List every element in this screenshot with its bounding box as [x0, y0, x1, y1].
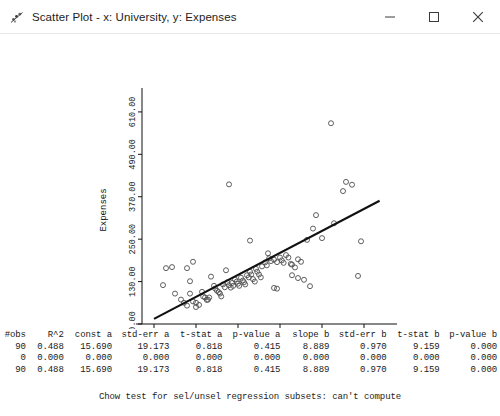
scatter-point [266, 251, 271, 256]
regression-stats-block: #obsR^2const astd-err at-stat ap-value a… [0, 330, 500, 402]
scatter-point [188, 291, 193, 296]
scatter-point [344, 179, 349, 184]
y-tick-label: 130.00 [128, 266, 138, 297]
scatter-point [314, 213, 319, 218]
scatter-point [185, 303, 190, 308]
table-cell: 0.000 [443, 342, 500, 354]
table-column-header: R^2 [29, 330, 67, 342]
scatter-point [320, 236, 325, 241]
table-column-header: t-stat a [172, 330, 225, 342]
table-cell: 0.000 [115, 353, 172, 365]
y-axis-tick-labels: 10.00130.00250.00370.00490.00610.00 [128, 97, 138, 329]
table-cell: 0.000 [29, 353, 67, 365]
regression-line [154, 201, 380, 319]
maximize-button[interactable] [412, 0, 456, 33]
scatter-plot-canvas: 10.00130.00250.00370.00490.00610.00 1.00… [0, 34, 500, 329]
table-cell: 9.159 [390, 365, 443, 377]
scatter-plot-window: Scatter Plot - x: University, y: Expense… [0, 0, 500, 416]
table-cell: 0.000 [332, 353, 389, 365]
scatter-point [185, 266, 190, 271]
table-cell: 15.690 [67, 342, 115, 354]
scatter-point [179, 297, 184, 302]
title-bar[interactable]: Scatter Plot - x: University, y: Expense… [0, 0, 500, 34]
plot-axes [136, 88, 397, 328]
table-column-header: #obs [0, 330, 29, 342]
scatter-point [209, 274, 214, 279]
table-cell: 0.000 [443, 365, 500, 377]
window-controls [368, 0, 500, 33]
chart-app-icon [9, 9, 25, 25]
table-cell: 0.488 [29, 365, 67, 377]
scatter-point [290, 273, 295, 278]
table-cell: 0.415 [225, 365, 283, 377]
table-header-row: #obsR^2const astd-err at-stat ap-value a… [0, 330, 500, 342]
scatter-point [302, 277, 307, 282]
regression-line-segment [154, 201, 380, 319]
scatter-point [164, 266, 169, 271]
table-cell: 0.000 [67, 353, 115, 365]
table-cell: 90 [0, 365, 29, 377]
table-row: 900.48815.69019.1730.8180.4158.8890.9709… [0, 365, 500, 377]
scatter-point [227, 182, 232, 187]
table-cell: 0 [0, 353, 29, 365]
table-row: 00.0000.0000.0000.0000.0000.0000.0000.00… [0, 353, 500, 365]
table-cell: 19.173 [115, 365, 172, 377]
table-cell: 0.818 [172, 342, 225, 354]
close-button[interactable] [456, 0, 500, 33]
scatter-point [224, 268, 229, 273]
table-row: 900.48815.69019.1730.8180.4158.8890.9709… [0, 342, 500, 354]
table-column-header: p-value b [443, 330, 500, 342]
y-tick-label: 490.00 [128, 139, 138, 170]
scatter-point [191, 259, 196, 264]
table-column-header: const a [67, 330, 115, 342]
minimize-button[interactable] [368, 0, 412, 33]
table-cell: 0.970 [332, 365, 389, 377]
table-body: 900.48815.69019.1730.8180.4158.8890.9709… [0, 342, 500, 377]
scatter-point [311, 226, 316, 231]
regression-stats-table: #obsR^2const astd-err at-stat ap-value a… [0, 330, 500, 376]
scatter-point [359, 239, 364, 244]
table-cell: 8.889 [283, 342, 332, 354]
scatter-point [356, 273, 361, 278]
y-tick-label: 370.00 [128, 181, 138, 212]
window-title: Scatter Plot - x: University, y: Expense… [32, 11, 237, 23]
scatter-point [170, 265, 175, 270]
scatter-point [308, 284, 313, 289]
scatter-points [161, 121, 364, 310]
scatter-point [188, 279, 193, 284]
scatter-point [173, 291, 178, 296]
table-cell: 19.173 [115, 342, 172, 354]
table-cell: 0.000 [172, 353, 225, 365]
y-tick-label: 10.00 [128, 311, 138, 329]
table-cell: 0.488 [29, 342, 67, 354]
table-column-header: slope b [283, 330, 332, 342]
scatter-point [293, 265, 298, 270]
scatter-point [329, 121, 334, 126]
table-cell: 8.889 [283, 365, 332, 377]
y-axis-label: Expenses [99, 188, 109, 231]
y-tick-label: 250.00 [128, 224, 138, 255]
scatter-point [248, 238, 253, 243]
scatter-point [350, 182, 355, 187]
table-column-header: t-stat b [390, 330, 443, 342]
table-cell: 0.818 [172, 365, 225, 377]
table-column-header: std-err b [332, 330, 389, 342]
table-cell: 0.970 [332, 342, 389, 354]
scatter-point [161, 283, 166, 288]
scatter-point [275, 286, 280, 291]
scatter-point [296, 276, 301, 281]
y-tick-label: 610.00 [128, 97, 138, 128]
table-cell: 90 [0, 342, 29, 354]
chow-test-note: Chow test for sel/unsel regression subse… [0, 392, 500, 402]
table-cell: 15.690 [67, 365, 115, 377]
plot-svg: 10.00130.00250.00370.00490.00610.00 1.00… [0, 34, 500, 329]
scatter-point [341, 189, 346, 194]
table-cell: 0.000 [443, 353, 500, 365]
table-cell: 0.000 [283, 353, 332, 365]
table-cell: 0.000 [225, 353, 283, 365]
table-column-header: std-err a [115, 330, 172, 342]
table-cell: 0.415 [225, 342, 283, 354]
table-cell: 9.159 [390, 342, 443, 354]
table-column-header: p-value a [225, 330, 283, 342]
table-cell: 0.000 [390, 353, 443, 365]
